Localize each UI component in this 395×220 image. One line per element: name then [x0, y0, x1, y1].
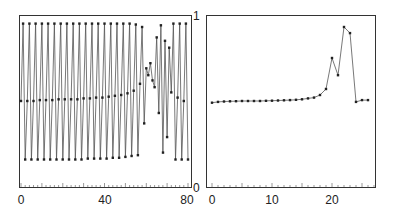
- left-xtick-40: 40: [98, 193, 112, 207]
- data-point-marker: [118, 157, 120, 159]
- data-point-marker: [160, 24, 162, 26]
- data-point-marker: [128, 22, 130, 24]
- data-point-marker: [30, 158, 32, 160]
- data-point-marker: [108, 96, 110, 98]
- data-point-marker: [259, 100, 261, 102]
- data-point-marker: [187, 158, 189, 160]
- data-point-marker: [319, 94, 321, 96]
- data-point-marker: [145, 67, 147, 69]
- data-point-marker: [277, 99, 279, 101]
- data-point-marker: [158, 112, 160, 114]
- right-x-minor-ticks: [212, 183, 374, 187]
- data-point-marker: [211, 102, 213, 104]
- data-point-marker: [60, 22, 62, 24]
- data-point-marker: [183, 100, 185, 102]
- data-point-marker: [235, 100, 237, 102]
- data-point-marker: [91, 22, 93, 24]
- data-point-marker: [116, 22, 118, 24]
- data-point-marker: [112, 157, 114, 159]
- left-x-minor-ticks: [21, 183, 188, 187]
- left-ytick-1: 1: [193, 9, 200, 23]
- data-point-marker: [99, 157, 101, 159]
- data-point-marker: [80, 158, 82, 160]
- data-point-marker: [122, 22, 124, 24]
- data-point-marker: [49, 158, 51, 160]
- data-point-marker: [93, 157, 95, 159]
- data-point-marker: [32, 100, 34, 102]
- data-point-marker: [151, 79, 153, 81]
- data-point-marker: [307, 97, 309, 99]
- data-point-marker: [343, 26, 345, 28]
- data-point-marker: [337, 74, 339, 76]
- data-point-marker: [124, 156, 126, 158]
- left-series-line: [21, 24, 188, 160]
- data-point-marker: [105, 157, 107, 159]
- data-point-marker: [55, 158, 57, 160]
- data-point-marker: [289, 99, 291, 101]
- data-point-marker: [64, 98, 66, 100]
- data-point-marker: [241, 100, 243, 102]
- data-point-marker: [85, 22, 87, 24]
- data-point-marker: [295, 99, 297, 101]
- data-point-marker: [41, 22, 43, 24]
- data-point-marker: [166, 136, 168, 138]
- data-point-marker: [349, 32, 351, 34]
- data-point-marker: [283, 99, 285, 101]
- data-point-marker: [89, 97, 91, 99]
- data-point-marker: [271, 100, 273, 102]
- data-point-marker: [143, 122, 145, 124]
- data-point-marker: [76, 98, 78, 100]
- data-point-marker: [126, 92, 128, 94]
- data-point-marker: [70, 98, 72, 100]
- data-point-marker: [22, 22, 24, 24]
- left-ytick-0: 0: [193, 181, 200, 195]
- data-point-marker: [223, 100, 225, 102]
- data-point-marker: [34, 22, 36, 24]
- data-point-marker: [53, 22, 55, 24]
- data-point-marker: [162, 151, 164, 153]
- data-point-marker: [301, 98, 303, 100]
- data-point-marker: [170, 91, 172, 93]
- data-point-marker: [82, 97, 84, 99]
- data-point-marker: [62, 158, 64, 160]
- data-point-marker: [179, 22, 181, 24]
- data-point-marker: [74, 158, 76, 160]
- chart-canvas: 0 40 80 1 0 0 10 20: [0, 0, 395, 220]
- data-point-marker: [174, 158, 176, 160]
- data-point-marker: [355, 101, 357, 103]
- data-point-marker: [361, 99, 363, 101]
- data-point-marker: [78, 22, 80, 24]
- data-point-marker: [135, 23, 137, 25]
- data-point-marker: [133, 90, 135, 92]
- right-xtick-0: 0: [209, 193, 216, 207]
- data-point-marker: [28, 22, 30, 24]
- data-point-marker: [172, 22, 174, 24]
- data-point-marker: [247, 100, 249, 102]
- left-xtick-80: 80: [180, 193, 194, 207]
- data-point-marker: [101, 96, 103, 98]
- right-series-line: [212, 27, 368, 103]
- data-point-marker: [217, 101, 219, 103]
- data-point-marker: [367, 99, 369, 101]
- data-point-marker: [164, 40, 166, 42]
- data-point-marker: [47, 22, 49, 24]
- data-point-marker: [181, 158, 183, 160]
- right-xtick-10: 10: [265, 193, 279, 207]
- data-point-marker: [24, 158, 26, 160]
- data-point-marker: [185, 22, 187, 24]
- data-point-marker: [325, 88, 327, 90]
- right-xtick-20: 20: [325, 193, 339, 207]
- data-point-marker: [43, 158, 45, 160]
- data-point-marker: [120, 94, 122, 96]
- data-point-marker: [87, 157, 89, 159]
- data-point-marker: [156, 36, 158, 38]
- data-point-marker: [176, 96, 178, 98]
- data-point-marker: [253, 100, 255, 102]
- data-point-marker: [37, 158, 39, 160]
- data-point-marker: [103, 22, 105, 24]
- data-point-marker: [168, 47, 170, 49]
- data-point-marker: [147, 74, 149, 76]
- data-point-marker: [139, 83, 141, 85]
- data-point-marker: [265, 100, 267, 102]
- data-point-marker: [313, 96, 315, 98]
